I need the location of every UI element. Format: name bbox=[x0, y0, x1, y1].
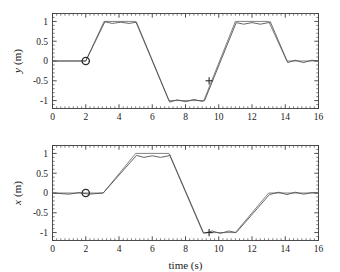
xtick-label: 2 bbox=[83, 244, 88, 254]
x-axis-label: time (s) bbox=[169, 259, 203, 272]
xtick-label: 14 bbox=[281, 244, 291, 254]
xtick-label: 16 bbox=[314, 112, 324, 122]
panel-x-vs-time: 10.50-0.5-10246810121416x(m)time (s) bbox=[11, 146, 324, 272]
y-axis-label-unit: (m) bbox=[11, 181, 24, 197]
ytick-label: 0 bbox=[43, 56, 48, 66]
ytick-label: 0.5 bbox=[36, 37, 48, 47]
plot-frame bbox=[53, 14, 319, 109]
panel-y-vs-time: 10.50-0.5-10246810121416y(m) bbox=[11, 14, 324, 123]
ytick-label: -1 bbox=[40, 96, 48, 106]
y-axis-label: x(m) bbox=[11, 181, 24, 206]
series-actual bbox=[53, 155, 319, 234]
xtick-label: 14 bbox=[281, 112, 291, 122]
ytick-label: 0 bbox=[43, 188, 48, 198]
xtick-label: 10 bbox=[214, 244, 224, 254]
xtick-label: 4 bbox=[117, 244, 122, 254]
series-reference bbox=[53, 21, 319, 100]
xtick-label: 12 bbox=[247, 244, 257, 254]
ytick-label: -0.5 bbox=[33, 76, 48, 86]
xtick-label: 8 bbox=[183, 112, 188, 122]
ytick-label: 0.5 bbox=[36, 169, 48, 179]
xtick-label: 4 bbox=[117, 112, 122, 122]
xtick-label: 0 bbox=[50, 112, 55, 122]
ytick-label: 1 bbox=[43, 17, 48, 27]
xtick-label: 6 bbox=[150, 244, 155, 254]
y-axis-label-unit: (m) bbox=[11, 49, 24, 65]
ytick-label: -1 bbox=[40, 228, 48, 238]
ytick-label: 1 bbox=[43, 149, 48, 159]
xtick-label: 6 bbox=[150, 112, 155, 122]
series-reference bbox=[53, 153, 319, 232]
y-axis-label-symbol: y bbox=[11, 68, 23, 74]
two-panel-plot: 10.50-0.5-10246810121416y(m)10.50-0.5-10… bbox=[0, 0, 340, 272]
figure-container: 10.50-0.5-10246810121416y(m)10.50-0.5-10… bbox=[0, 0, 340, 272]
xtick-label: 2 bbox=[83, 112, 88, 122]
y-axis-label-symbol: x bbox=[11, 200, 23, 206]
ytick-label: -0.5 bbox=[33, 208, 48, 218]
series-actual bbox=[53, 22, 319, 102]
xtick-label: 16 bbox=[314, 244, 324, 254]
xtick-label: 8 bbox=[183, 244, 188, 254]
xtick-label: 10 bbox=[214, 112, 224, 122]
xtick-label: 0 bbox=[50, 244, 55, 254]
y-axis-label: y(m) bbox=[11, 49, 24, 74]
xtick-label: 12 bbox=[247, 112, 257, 122]
